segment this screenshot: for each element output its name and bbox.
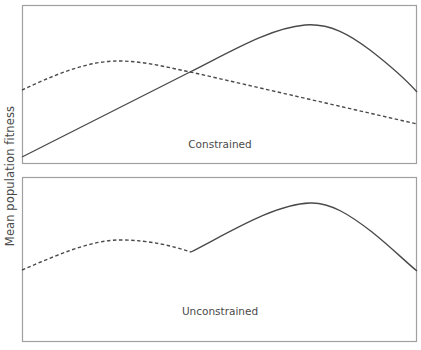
- chart-svg: [0, 0, 421, 350]
- panel-top-label: Constrained: [188, 138, 251, 150]
- panel-bottom-solid-line: [191, 203, 417, 271]
- figure: Mean population fitness Constrained Unco…: [0, 0, 421, 350]
- panel-bottom-label: Unconstrained: [182, 305, 258, 317]
- panel-bottom-dashed-line: [22, 240, 191, 270]
- panel-top-dashed-line: [22, 61, 417, 124]
- y-axis-label: Mean population fitness: [3, 106, 17, 246]
